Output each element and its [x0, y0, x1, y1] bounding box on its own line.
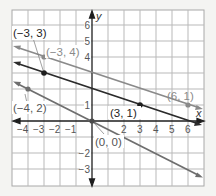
- point-0-0: [89, 118, 94, 123]
- svg-text:6: 6: [84, 20, 90, 31]
- label-neg3-4: (−3, 4): [46, 46, 80, 58]
- label-0-0: (0, 0): [95, 136, 122, 148]
- svg-text:−4: −4: [17, 124, 29, 135]
- svg-text:5: 5: [84, 36, 90, 47]
- coordinate-graph: (−3, 3) (−3, 4) (6, 1) (3, 1) (−4, 2) (0…: [0, 0, 216, 196]
- label-neg4-2: (−4, 2): [13, 102, 47, 114]
- svg-text:6: 6: [185, 124, 191, 135]
- point-6-1: [185, 102, 190, 107]
- label-6-1: (6, 1): [167, 90, 194, 102]
- svg-text:3: 3: [137, 124, 143, 135]
- svg-text:−3: −3: [33, 124, 45, 135]
- svg-text:4: 4: [153, 124, 159, 135]
- svg-text:1: 1: [84, 100, 90, 111]
- label-neg3-3: (−3, 3): [13, 27, 47, 39]
- svg-text:−2: −2: [79, 148, 91, 159]
- x-axis-label: x: [195, 107, 202, 119]
- svg-text:−2: −2: [49, 124, 61, 135]
- label-3-1: (3, 1): [110, 107, 137, 119]
- svg-text:−3: −3: [79, 164, 91, 175]
- svg-text:2: 2: [121, 124, 127, 135]
- svg-text:5: 5: [169, 124, 175, 135]
- point-neg3-3: [41, 70, 47, 76]
- svg-text:4: 4: [84, 52, 90, 63]
- point-neg4-2: [25, 86, 30, 91]
- svg-text:−1: −1: [65, 124, 77, 135]
